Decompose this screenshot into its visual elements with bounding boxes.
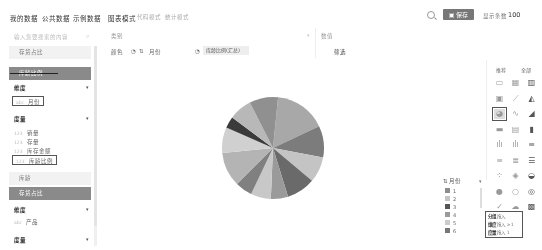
kpi-icon[interactable]: ▣ bbox=[494, 94, 505, 104]
cross-table-icon[interactable]: ▦ bbox=[510, 78, 521, 88]
pie-icon[interactable]: ◕ bbox=[494, 109, 505, 119]
annotation-underline bbox=[10, 73, 58, 74]
color-label: 颜色 bbox=[111, 48, 123, 56]
scatter-icon[interactable]: ⁘ bbox=[494, 171, 505, 181]
column-icon[interactable]: ▮ bbox=[526, 125, 537, 135]
legend-item[interactable]: 3 bbox=[445, 204, 456, 211]
sort-icon[interactable]: ⇅ bbox=[139, 48, 144, 54]
pie-chart-svg[interactable] bbox=[221, 96, 325, 200]
color-picker-icon[interactable]: ◔ bbox=[131, 48, 136, 54]
tab-recommended[interactable]: 推荐 bbox=[496, 66, 506, 73]
scrollbar-thumb[interactable] bbox=[94, 46, 97, 226]
treemap-icon[interactable]: ▩ bbox=[526, 202, 537, 212]
donut-icon[interactable]: ◎ bbox=[526, 187, 537, 197]
angle-icon: ◔ bbox=[195, 48, 200, 54]
mode-stats[interactable]: 统计模式 bbox=[165, 13, 189, 21]
hint-dimension: 维度 拖入 ≥1 bbox=[488, 221, 520, 229]
value-drop-zone[interactable]: 数值 bbox=[321, 32, 333, 40]
pie-chart[interactable] bbox=[221, 96, 325, 200]
save-button[interactable]: ▣ 保存 bbox=[443, 9, 474, 20]
number-type-icon: 123 bbox=[14, 131, 23, 136]
chart-requirement-hints: 分组 拖入 维度 拖入 ≥1 度量 拖入 1 bbox=[485, 211, 523, 238]
tab-public-data[interactable]: 公共数据 bbox=[42, 13, 70, 23]
color-field-chip[interactable]: 月份 bbox=[149, 48, 161, 56]
save-label: 保存 bbox=[456, 11, 468, 18]
horizontal-bar-icon[interactable]: ≡ bbox=[526, 140, 537, 150]
stacked-column-icon[interactable]: ılı bbox=[510, 140, 521, 150]
mode-chart[interactable]: 图表模式 bbox=[108, 13, 136, 23]
number-type-icon: 123 bbox=[14, 140, 23, 145]
divider bbox=[315, 28, 316, 58]
hint-group: 分组 拖入 bbox=[488, 213, 520, 221]
text-type-icon: abc bbox=[14, 220, 22, 225]
gauge-icon[interactable]: ● bbox=[494, 187, 505, 197]
collapse-arrow-icon[interactable]: ▾ bbox=[86, 115, 89, 121]
tab-sample-data[interactable]: 示例数据 bbox=[73, 13, 101, 23]
number-type-icon: 123 bbox=[16, 159, 25, 164]
horizontal-full-icon[interactable]: ☰ bbox=[526, 156, 537, 166]
measure-header: 度量 bbox=[14, 236, 26, 244]
multi-column-icon[interactable]: ılı bbox=[494, 140, 505, 150]
map-icon[interactable]: ◈ bbox=[510, 171, 521, 181]
legend-item[interactable]: 1 bbox=[445, 188, 456, 195]
chevron-down-icon[interactable]: ▾ bbox=[479, 178, 482, 184]
legend-item[interactable]: 2 bbox=[445, 196, 456, 203]
line-icon[interactable]: ⟋ bbox=[510, 94, 521, 104]
legend-item[interactable]: 6 bbox=[445, 228, 456, 235]
ring-icon[interactable]: ○ bbox=[510, 187, 521, 197]
show-rows-label: 显示条数 bbox=[483, 12, 507, 20]
legend-item[interactable]: 4 bbox=[445, 212, 456, 219]
search-icon[interactable] bbox=[427, 11, 435, 19]
number-type-icon: 123 bbox=[14, 149, 23, 154]
table-icon[interactable]: ▭ bbox=[494, 78, 505, 88]
divider bbox=[486, 60, 487, 180]
data-panel: 输入您要搜索的内容 ⌕ 存货占比 库龄比例 维度 ▾ abc月份 度量 ▾ 12… bbox=[0, 26, 97, 250]
stacked-area-icon[interactable]: ◢ bbox=[526, 109, 537, 119]
legend-scrollbar[interactable] bbox=[480, 188, 482, 208]
multi-line-icon[interactable]: ∿ bbox=[510, 109, 521, 119]
field-search-input[interactable]: 输入您要搜索的内容 bbox=[14, 33, 68, 41]
area-icon[interactable]: ◭ bbox=[526, 94, 537, 104]
measure-chip[interactable]: 库龄比例(汇总) bbox=[203, 46, 249, 55]
table-item-stock-age[interactable]: 库龄 bbox=[9, 172, 91, 185]
bar-table-icon[interactable]: ▥ bbox=[526, 78, 537, 88]
top-nav: 我的数据 公共数据 示例数据 图表模式 代码模式 统计模式 ▣ 保存 显示条数 … bbox=[0, 0, 542, 26]
show-rows-input[interactable]: 100 bbox=[508, 11, 520, 19]
mode-code[interactable]: 代码模式 bbox=[137, 13, 161, 21]
legend-item[interactable]: 5 bbox=[445, 220, 456, 227]
table-item-inventory-share-2[interactable]: 存货占比 bbox=[9, 187, 91, 200]
funnel-icon[interactable]: ◒ bbox=[526, 171, 537, 181]
collapse-arrow-icon[interactable]: ▾ bbox=[86, 84, 89, 90]
tab-my-data[interactable]: 我的数据 bbox=[10, 13, 38, 23]
search-icon[interactable]: ⌕ bbox=[86, 32, 89, 40]
hint-measure: 度量 拖入 1 bbox=[488, 229, 520, 237]
bar-icon[interactable]: ▬ bbox=[494, 125, 505, 135]
category-drop-zone[interactable]: 类别 bbox=[111, 32, 123, 40]
field-product[interactable]: abc产品 bbox=[14, 217, 38, 227]
filter-button[interactable]: 筛选 bbox=[334, 48, 346, 56]
tab-all[interactable]: 全部 bbox=[521, 66, 531, 73]
grouped-bar-icon[interactable]: ▤ bbox=[510, 125, 521, 135]
legend-title: ⇅ 月份 bbox=[443, 177, 461, 185]
collapse-arrow-icon[interactable]: ▾ bbox=[86, 206, 89, 212]
dimension-header: 维度 bbox=[14, 206, 26, 214]
field-stock-age-ratio[interactable]: 123库龄比例 bbox=[12, 155, 57, 165]
collapse-arrow-icon[interactable]: ▾ bbox=[86, 236, 89, 242]
dimension-header: 维度 bbox=[14, 84, 26, 92]
table-item-inventory-share[interactable]: 存货占比 bbox=[9, 46, 91, 59]
measure-header: 度量 bbox=[14, 115, 26, 123]
horizontal-stack-icon[interactable]: ≣ bbox=[510, 156, 521, 166]
horizontal-group-icon[interactable]: ≡ bbox=[494, 156, 505, 166]
chevron-down-icon[interactable]: ▾ bbox=[307, 32, 310, 38]
text-type-icon: abc bbox=[16, 100, 24, 105]
field-month[interactable]: abc月份 bbox=[12, 96, 44, 106]
